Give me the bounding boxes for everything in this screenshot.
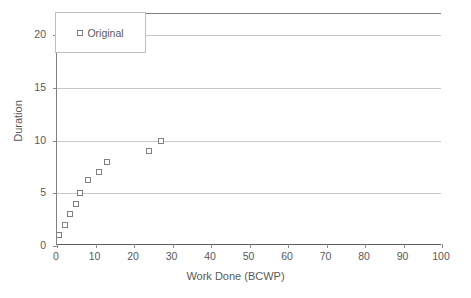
x-tick-label-90: 90 [397,250,409,262]
x-tick-label-50: 50 [243,250,255,262]
x-tick-40 [211,244,212,248]
x-tick-label-10: 10 [89,250,101,262]
x-tick-label-30: 30 [166,250,178,262]
x-tick-10 [96,244,97,248]
y-tick-label-5: 5 [24,186,46,198]
x-tick-0 [57,244,58,248]
y-tick-5 [53,193,57,194]
data-point [67,211,73,217]
data-point [104,159,110,165]
legend: Original [55,12,146,53]
x-tick-90 [404,244,405,248]
data-point [85,177,91,183]
x-tick-label-40: 40 [204,250,216,262]
data-point [158,138,164,144]
x-tick-label-100: 100 [432,250,450,262]
data-point [146,148,152,154]
x-tick-100 [442,244,443,248]
open-square-marker-icon [77,30,83,36]
x-tick-30 [173,244,174,248]
y-tick-label-20: 20 [24,28,46,40]
x-tick-label-0: 0 [53,250,59,262]
y-tick-label-15: 15 [24,81,46,93]
x-axis-title: Work Done (BCWP) [0,270,471,282]
x-tick-60 [288,244,289,248]
x-tick-20 [134,244,135,248]
y-tick-10 [53,141,57,142]
y-axis-title: Duration [12,81,24,161]
y-tick-0 [53,246,57,247]
scatter-chart: 0102030405060708090100 05101520 Work Don… [0,0,471,298]
x-tick-70 [327,244,328,248]
gridline-y-10 [57,141,441,142]
data-point [62,222,68,228]
x-tick-label-70: 70 [320,250,332,262]
x-tick-label-60: 60 [281,250,293,262]
x-tick-50 [250,244,251,248]
gridline-y-5 [57,193,441,194]
data-point [56,232,62,238]
data-point [73,201,79,207]
x-tick-label-80: 80 [358,250,370,262]
y-tick-label-10: 10 [24,134,46,146]
x-tick-label-20: 20 [127,250,139,262]
y-tick-label-0: 0 [24,239,46,251]
gridline-y-15 [57,88,441,89]
data-point [96,169,102,175]
x-tick-80 [365,244,366,248]
legend-label-original: Original [87,27,123,39]
y-tick-15 [53,88,57,89]
data-point [77,190,83,196]
